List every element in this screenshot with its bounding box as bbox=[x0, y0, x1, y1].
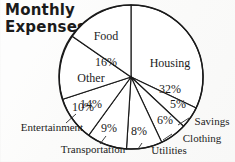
slice-label-housing-name: Housing bbox=[150, 56, 191, 70]
slice-label-other: Other 14% bbox=[62, 59, 108, 124]
slice-label-transportation: Transportation bbox=[43, 143, 143, 155]
slice-value-savings: 5% bbox=[167, 98, 189, 111]
slice-label-savings: Savings bbox=[188, 115, 235, 127]
slice-label-utilities: Utilities bbox=[140, 144, 198, 156]
slice-value-entertainment: 10% bbox=[68, 101, 98, 114]
slice-value-utilities: 8% bbox=[127, 125, 151, 138]
slice-value-clothing: 6% bbox=[154, 114, 176, 127]
slice-label-other-name: Other bbox=[77, 71, 104, 85]
slice-label-entertainment: Entertainment bbox=[6, 121, 98, 133]
slice-value-transportation: 9% bbox=[97, 122, 121, 135]
slice-label-food-name: Food bbox=[94, 29, 119, 43]
slice-label-housing-value: 32% bbox=[159, 82, 181, 96]
slice-label-clothing: Clothing bbox=[173, 132, 231, 144]
pie-chart-figure: MonthlyExpenses bbox=[0, 0, 235, 162]
